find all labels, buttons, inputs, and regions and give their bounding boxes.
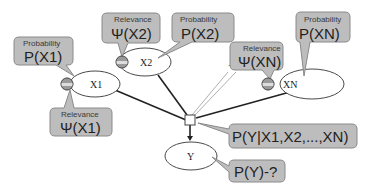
node-x1[interactable]: X1 [70, 71, 120, 97]
callout-title: Probability [180, 15, 217, 24]
relevance-icon [262, 78, 274, 90]
edge-xn-factor [196, 92, 290, 118]
callout-formula: P(Y)-? [234, 163, 277, 180]
callout-formula: P(Y|X1,X2,...,XN) [232, 128, 348, 145]
callout-formula: Ψ(XN) [238, 53, 281, 70]
callout-formula: Ψ(X2) [111, 25, 152, 42]
relevance-icon [116, 56, 128, 68]
callout-formula: P(X2) [181, 25, 219, 42]
callout-relevance-xn: Relevance Ψ(XN) [230, 42, 283, 79]
callout-conditional-probability: P(Y|X1,X2,...,XN) [198, 123, 357, 148]
node-x1-label: X1 [90, 79, 102, 90]
edge-x1-factor [115, 90, 186, 120]
callout-formula: P(X1) [24, 48, 62, 65]
callout-probability-xn: Probability P(XN) [296, 12, 350, 76]
edge-ellipsis-factor-1 [192, 72, 228, 115]
callout-title: Relevance [61, 110, 99, 119]
node-y[interactable]: Y [165, 142, 217, 170]
node-xn[interactable]: XN [280, 69, 344, 99]
callout-probability-x1: Probability P(X1) [14, 37, 74, 76]
edge-x2-factor [158, 75, 187, 115]
factor-node [185, 115, 195, 125]
callout-title: Relevance [114, 15, 152, 24]
callout-title: Relevance [243, 44, 281, 53]
callout-formula: Ψ(X1) [60, 119, 101, 136]
callout-formula: P(XN) [299, 25, 340, 42]
node-x2-label: X2 [140, 57, 152, 68]
node-y-label: Y [187, 151, 194, 162]
bayesian-diagram: X1 X2 XN Y ... Probability P(X1) Relevan… [0, 0, 370, 194]
callout-title: Probability [304, 15, 341, 24]
relevance-icon [61, 78, 73, 90]
node-xn-label: XN [283, 79, 297, 90]
arrowhead-icon [187, 136, 193, 141]
callout-probability-x2: Probability P(X2) [158, 13, 234, 58]
callout-title: Probability [23, 39, 60, 48]
callout-target-probability: P(Y)-? [212, 157, 285, 182]
